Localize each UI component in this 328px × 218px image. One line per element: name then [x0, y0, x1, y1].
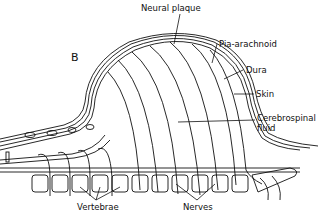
label-dura: Dura [246, 65, 267, 75]
label-nerves: Nerves [183, 202, 213, 212]
diagram-drawing [0, 0, 328, 218]
label-skin: Skin [256, 89, 274, 99]
panel-letter: B [71, 53, 79, 63]
label-vertebrae: Vertebrae [77, 202, 119, 212]
label-csf-line2: fluid [257, 123, 276, 133]
myelomeningocele-diagram: Neural plaque Pia-arachnoid Dura Skin Ce… [0, 0, 328, 218]
label-csf-line1: Cerebrospinal [257, 113, 316, 123]
label-neural-plaque: Neural plaque [141, 3, 201, 13]
spinal-cord-bar [0, 152, 300, 172]
label-pia-arachnoid: Pia-arachnoid [219, 39, 277, 49]
